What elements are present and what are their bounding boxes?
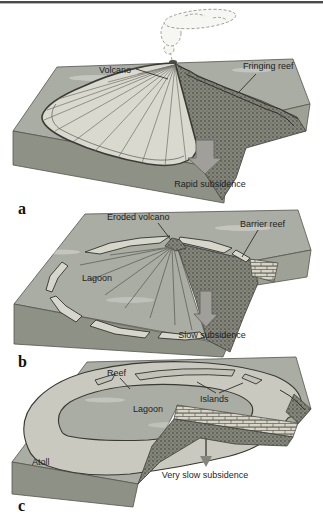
atoll-formation-diagram: Volcano Fringing reef Rapid subsidence a (0, 0, 323, 520)
label-eroded-volcano: Eroded volcano (107, 212, 170, 222)
panel-letter-b: b (18, 353, 27, 370)
panel-letter-a: a (18, 200, 26, 217)
caption-a: Rapid subsidence (174, 179, 246, 189)
panel-a: Volcano Fringing reef Rapid subsidence a (13, 6, 310, 217)
label-reef: Reef (107, 368, 127, 378)
top-rule-divider (0, 1, 323, 3)
label-volcano: Volcano (99, 65, 131, 75)
caption-b: Slow subsidence (178, 330, 246, 340)
label-fringing-reef: Fringing reef (243, 61, 294, 71)
label-lagoon-c: Lagoon (133, 404, 163, 414)
caption-c: Very slow subsidence (162, 470, 249, 480)
label-barrier-reef: Barrier reef (240, 219, 286, 229)
smoke-plume-icon (161, 6, 237, 60)
figure-canvas: Volcano Fringing reef Rapid subsidence a (0, 0, 323, 520)
lagoon-highlight (85, 398, 125, 403)
label-atoll: Atoll (32, 457, 50, 467)
panel-c: Reef Islands Lagoon Atoll Very slow subs… (12, 357, 311, 514)
panel-letter-c: c (18, 497, 25, 514)
volcano-crater (169, 60, 177, 64)
label-lagoon-b: Lagoon (82, 273, 112, 283)
label-islands: Islands (200, 394, 229, 404)
sea-highlight (44, 250, 80, 255)
panel-b: Eroded volcano Barrier reef Lagoon Slow … (14, 210, 311, 370)
